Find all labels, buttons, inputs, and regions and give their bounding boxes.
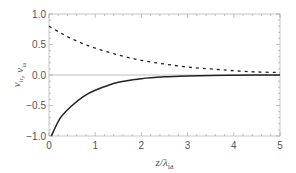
x-tick-label: 5 xyxy=(277,140,283,151)
y-tick-label: −1.0 xyxy=(26,131,46,142)
series-dashed-line xyxy=(49,26,280,72)
y-tick-label: 0.0 xyxy=(32,70,46,81)
x-tick-label: 1 xyxy=(92,140,98,151)
x-tick-label: 4 xyxy=(231,140,237,151)
line-chart: 0123451.00.50.0−0.5−1.0z/λiavir, via xyxy=(0,0,296,173)
x-tick-label: 0 xyxy=(46,140,52,151)
y-tick-label: 0.5 xyxy=(32,39,46,50)
x-axis-label: z/λia xyxy=(155,156,174,171)
x-tick-label: 2 xyxy=(139,140,145,151)
y-axis-label: vir, via xyxy=(10,62,28,88)
series-solid-line xyxy=(51,75,280,136)
y-tick-label: 1.0 xyxy=(32,9,46,20)
x-tick-label: 3 xyxy=(185,140,191,151)
y-tick-label: −0.5 xyxy=(26,100,46,111)
